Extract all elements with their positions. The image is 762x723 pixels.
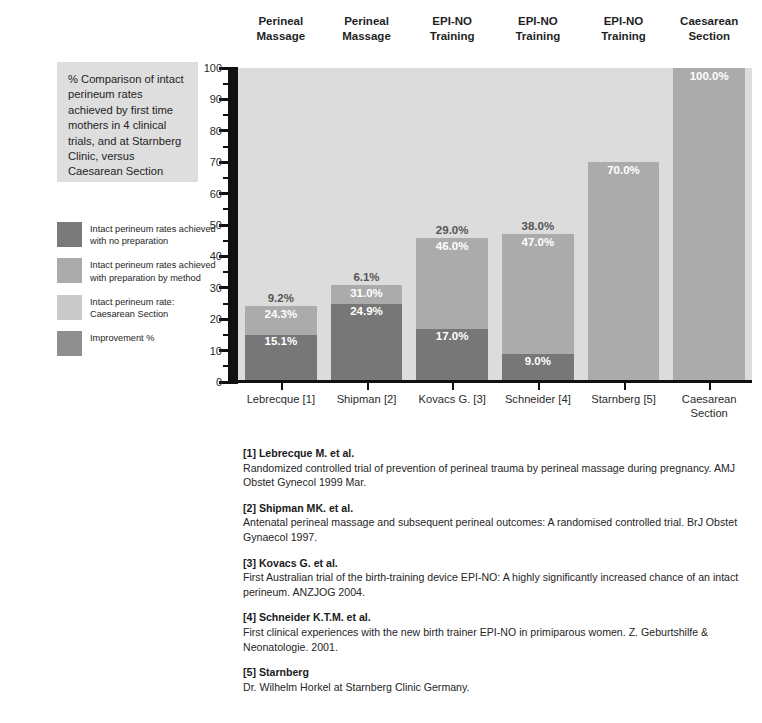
column-header-5: CaesareanSection <box>666 14 752 60</box>
x-tick-1 <box>367 383 369 390</box>
bar-improvement-label-3: 38.0% <box>495 220 581 232</box>
y-tick-minor-55 <box>223 208 238 210</box>
reference-1: [1] Lebrecque M. et al.Randomized contro… <box>243 446 748 490</box>
x-axis <box>228 380 752 383</box>
x-tick-0 <box>281 383 283 390</box>
legend-swatch-icon-3 <box>57 331 82 356</box>
bar-top-value-label-2: 46.0% <box>416 240 488 252</box>
bar-segment-prepared-4 <box>588 162 660 382</box>
x-axis-label-line1: Starnberg [5] <box>581 392 667 406</box>
bar-slot-1: 24.9%31.0%6.1% <box>324 68 410 382</box>
y-tick-minor-75 <box>223 146 238 148</box>
y-tick-label-70: 70 <box>210 156 222 168</box>
y-tick-label-0: 0 <box>216 376 222 388</box>
x-axis-label-line1: Kovacs G. [3] <box>409 392 495 406</box>
x-tick-2 <box>452 383 454 390</box>
legend-label-0: Intact perineum rates achieved with no p… <box>90 222 217 247</box>
y-tick-label-100: 100 <box>204 62 222 74</box>
bar-slot-0: 15.1%24.3%9.2% <box>238 68 324 382</box>
x-axis-label-line2: Section <box>666 406 752 420</box>
plot-area: 15.1%24.3%9.2%24.9%31.0%6.1%17.0%46.0%29… <box>238 68 752 382</box>
y-tick-label-10: 10 <box>210 345 222 357</box>
legend-swatch-icon-2 <box>57 295 82 320</box>
bar-slot-4: 70.0% <box>581 68 667 382</box>
column-header-line1: Caesarean <box>666 14 752 29</box>
y-tick-minor-95 <box>223 83 238 85</box>
bar-base-value-label-1: 24.9% <box>331 305 403 317</box>
y-tick-minor-35 <box>223 271 238 273</box>
y-tick-label-90: 90 <box>210 93 222 105</box>
column-header-0: PerinealMassage <box>238 14 324 60</box>
bar-improvement-label-1: 6.1% <box>324 271 410 283</box>
chart-title-box: % Comparison of intact perineum rates ac… <box>57 62 198 182</box>
bar-top-value-label-1: 31.0% <box>331 287 403 299</box>
reference-body-1: Randomized controlled trial of preventio… <box>243 461 748 490</box>
y-tick-minor-45 <box>223 240 238 242</box>
y-tick-label-60: 60 <box>210 188 222 200</box>
reference-body-2: Antenatal perineal massage and subsequen… <box>243 515 748 544</box>
legend-swatch-icon-0 <box>57 222 82 247</box>
bar-top-value-label-3: 47.0% <box>502 236 574 248</box>
bar-3: 9.0%47.0% <box>502 234 574 382</box>
x-tick-4 <box>624 383 626 390</box>
column-header-line1: EPI-NO <box>581 14 667 29</box>
bar-slot-5: 100.0% <box>666 68 752 382</box>
bar-base-value-label-2: 17.0% <box>416 330 488 342</box>
bar-top-value-label-4: 70.0% <box>588 164 660 176</box>
x-axis-label-3: Schneider [4] <box>495 392 581 420</box>
legend-label-2: Intact perineum rate: Caesarean Section <box>90 295 217 320</box>
y-tick-label-80: 80 <box>210 125 222 137</box>
legend-label-1: Intact perineum rates achieved with prep… <box>90 258 217 283</box>
reference-3: [3] Kovacs G. et al.First Australian tri… <box>243 556 748 600</box>
y-tick-minor-65 <box>223 177 238 179</box>
reference-title-4: [4] Schneider K.T.M. et al. <box>243 610 748 625</box>
chart-legend: Intact perineum rates achieved with no p… <box>57 222 217 367</box>
reference-body-5: Dr. Wilhelm Horkel at Starnberg Clinic G… <box>243 680 748 695</box>
column-header-line2: Training <box>581 29 667 44</box>
bar-5: 100.0% <box>673 68 745 382</box>
x-axis-label-line1: Shipman [2] <box>324 392 410 406</box>
x-tick-5 <box>709 383 711 390</box>
x-axis-label-5: CaesareanSection <box>666 392 752 420</box>
column-header-line1: Perineal <box>238 14 324 29</box>
legend-item-0: Intact perineum rates achieved with no p… <box>57 222 217 247</box>
column-header-line1: Perineal <box>324 14 410 29</box>
reference-2: [2] Shipman MK. et al.Antenatal perineal… <box>243 501 748 545</box>
column-header-1: PerinealMassage <box>324 14 410 60</box>
reference-5: [5] StarnbergDr. Wilhelm Horkel at Starn… <box>243 665 748 694</box>
x-tick-3 <box>538 383 540 390</box>
column-header-row: PerinealMassagePerinealMassageEPI-NOTrai… <box>238 14 752 60</box>
y-tick-minor-5 <box>223 365 238 367</box>
references-list: [1] Lebrecque M. et al.Randomized contro… <box>243 446 748 705</box>
column-header-2: EPI-NOTraining <box>409 14 495 60</box>
bar-segment-prepared-5 <box>673 68 745 382</box>
y-axis: 0102030405060708090100 <box>228 68 238 382</box>
reference-body-3: First Australian trial of the birth-trai… <box>243 570 748 599</box>
reference-title-5: [5] Starnberg <box>243 665 748 680</box>
x-axis-label-1: Shipman [2] <box>324 392 410 420</box>
bar-improvement-label-0: 9.2% <box>238 292 324 304</box>
y-tick-minor-25 <box>223 303 238 305</box>
y-tick-label-30: 30 <box>210 282 222 294</box>
column-header-line1: EPI-NO <box>409 14 495 29</box>
column-header-line2: Training <box>495 29 581 44</box>
bar-slot-3: 9.0%47.0%38.0% <box>495 68 581 382</box>
legend-swatch-icon-1 <box>57 258 82 283</box>
y-tick-minor-15 <box>223 334 238 336</box>
bar-1: 24.9%31.0% <box>331 285 403 382</box>
bar-base-value-label-0: 15.1% <box>245 335 317 347</box>
y-tick-label-20: 20 <box>210 313 222 325</box>
reference-title-1: [1] Lebrecque M. et al. <box>243 446 748 461</box>
reference-title-2: [2] Shipman MK. et al. <box>243 501 748 516</box>
bar-0: 15.1%24.3% <box>245 306 317 382</box>
y-tick-minor-85 <box>223 114 238 116</box>
y-tick-label-50: 50 <box>210 219 222 231</box>
column-header-line2: Massage <box>238 29 324 44</box>
x-axis-label-4: Starnberg [5] <box>581 392 667 420</box>
legend-item-3: Improvement % <box>57 331 217 356</box>
bar-slot-2: 17.0%46.0%29.0% <box>409 68 495 382</box>
x-axis-label-2: Kovacs G. [3] <box>409 392 495 420</box>
column-header-line1: EPI-NO <box>495 14 581 29</box>
bar-top-value-label-0: 24.3% <box>245 308 317 320</box>
legend-label-3: Improvement % <box>90 331 154 344</box>
